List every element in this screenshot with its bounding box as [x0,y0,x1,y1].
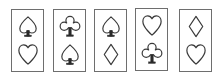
card-5[interactable] [179,9,212,72]
card-row [0,0,222,79]
card-2[interactable] [53,9,86,72]
heart-icon [16,42,40,67]
spade-icon [58,42,82,67]
heart-icon [184,42,208,67]
club-icon [58,14,82,39]
card-4[interactable] [135,8,168,71]
diamond-icon [184,14,208,39]
card-1[interactable] [11,9,44,72]
spade-icon [16,14,40,39]
heart-icon [140,13,164,38]
diamond-icon [99,42,123,67]
spade-icon [99,14,123,39]
club-icon [140,41,164,66]
card-3[interactable] [94,9,127,72]
